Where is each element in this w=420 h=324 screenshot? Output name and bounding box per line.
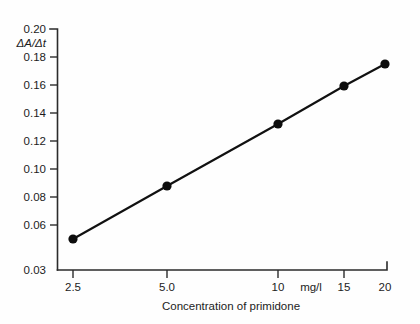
x-axis-line — [58, 262, 388, 270]
data-point-4 — [380, 59, 389, 68]
x-tick-label-1: 5.0 — [159, 281, 175, 293]
x-tick-label-0: 2.5 — [65, 281, 81, 293]
x-tick-label-4: 20 — [379, 281, 392, 293]
y-axis-ticks — [50, 57, 58, 225]
data-point-0 — [68, 234, 77, 243]
x-axis-label: Concentration of primidone — [162, 300, 300, 312]
data-series-line — [73, 64, 385, 239]
x-tick-label-2: 10 — [272, 281, 285, 293]
data-point-3 — [339, 81, 348, 90]
x-tick-label-3: 15 — [338, 281, 351, 293]
y-tick-label-2: 0.16 — [24, 79, 46, 91]
y-axis-line — [50, 29, 58, 270]
data-point-2 — [273, 119, 282, 128]
x-axis-unit-label: mg/l — [300, 281, 322, 293]
y-tick-label-3: 0.14 — [24, 107, 47, 119]
data-point-1 — [162, 181, 171, 190]
y-tick-label-0: 0.20 — [24, 23, 46, 35]
y-axis-label: ΔA/Δt — [16, 37, 47, 49]
y-tick-label-6: 0.08 — [24, 191, 46, 203]
y-tick-label-7: 0.06 — [24, 219, 46, 231]
y-tick-label-5: 0.10 — [24, 163, 46, 175]
calibration-chart-figure: 0.20 0.18 0.16 0.14 0.12 0.10 0.08 0.06 … — [0, 0, 420, 324]
y-tick-label-8: 0.03 — [24, 264, 46, 276]
chart-canvas: 0.20 0.18 0.16 0.14 0.12 0.10 0.08 0.06 … — [0, 0, 420, 324]
y-tick-label-4: 0.12 — [24, 135, 46, 147]
x-axis-ticks — [73, 270, 344, 278]
y-tick-label-1: 0.18 — [24, 51, 46, 63]
